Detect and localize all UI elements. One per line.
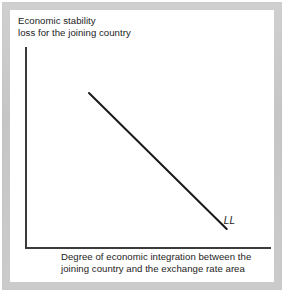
chart-plate: Economic stability loss for the joining … <box>10 10 274 282</box>
x-axis-label-line2: joining country and the exchange rate ar… <box>61 263 245 274</box>
ll-curve-label: LL <box>224 215 236 226</box>
ll-curve-line <box>89 93 227 229</box>
ll-curve-svg <box>10 10 274 282</box>
x-axis-label: Degree of economic integration between t… <box>61 251 276 274</box>
figure-root: Economic stability loss for the joining … <box>0 0 292 296</box>
x-axis-label-line1: Degree of economic integration between t… <box>61 251 251 262</box>
